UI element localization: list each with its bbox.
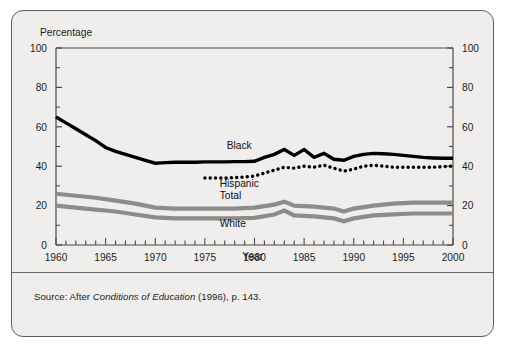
source-divider xyxy=(12,272,493,273)
series-label-total: Total xyxy=(220,190,242,201)
source-suffix: (1996), p. 143. xyxy=(195,291,261,302)
source-prefix: Source: After xyxy=(34,291,93,302)
series-line-hispanic xyxy=(205,165,453,178)
x-tick-label: 1965 xyxy=(94,252,117,263)
series-line-total xyxy=(56,194,453,212)
figure-root: Percentage Year 002020404060608080100100… xyxy=(0,0,507,349)
y-tick-label-right: 100 xyxy=(462,43,479,54)
line-chart-plot: 0020204040606080801001001960196519701975… xyxy=(12,11,493,273)
y-tick-label-right: 40 xyxy=(462,161,474,172)
series-line-black xyxy=(56,117,453,163)
x-tick-label: 1975 xyxy=(194,252,217,263)
series-label-white: White xyxy=(220,218,246,229)
source-title-italic: Conditions of Education xyxy=(93,291,195,302)
y-tick-label-right: 80 xyxy=(462,82,474,93)
series-label-hispanic: Hispanic xyxy=(220,178,259,189)
x-tick-label: 1960 xyxy=(45,252,68,263)
y-tick-label-left: 80 xyxy=(36,82,48,93)
y-tick-label-left: 20 xyxy=(36,200,48,211)
x-tick-label: 1970 xyxy=(144,252,167,263)
source-citation: Source: After Conditions of Education (1… xyxy=(34,291,261,302)
series-label-black: Black xyxy=(227,140,253,151)
y-tick-label-right: 60 xyxy=(462,122,474,133)
x-tick-label: 1995 xyxy=(392,252,415,263)
y-tick-label-left: 60 xyxy=(36,122,48,133)
x-tick-label: 2000 xyxy=(442,252,465,263)
y-tick-label-left: 100 xyxy=(30,43,47,54)
chart-panel: Percentage Year 002020404060608080100100… xyxy=(11,10,494,337)
y-tick-label-left: 40 xyxy=(36,161,48,172)
x-tick-label: 1980 xyxy=(243,252,266,263)
y-tick-label-right: 20 xyxy=(462,200,474,211)
x-tick-label: 1985 xyxy=(293,252,316,263)
x-tick-label: 1990 xyxy=(342,252,365,263)
y-tick-label-left: 0 xyxy=(41,240,47,251)
y-tick-label-right: 0 xyxy=(462,240,468,251)
